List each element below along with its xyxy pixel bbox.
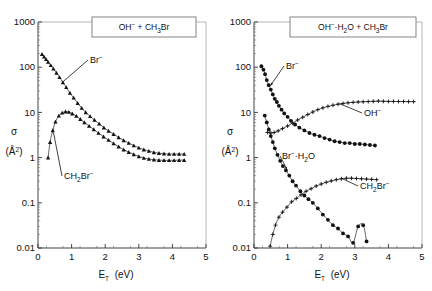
y-tick-label-4: 0.1 (238, 197, 251, 208)
data-point (328, 138, 332, 142)
y-tick-label-0: 1000 (14, 16, 35, 27)
data-point (106, 129, 110, 133)
data-point (271, 232, 275, 236)
data-point (356, 100, 360, 104)
data-point (321, 213, 325, 217)
x-tick-label-3: 3 (136, 251, 141, 262)
data-point (306, 112, 310, 116)
data-point (137, 154, 141, 158)
data-point (127, 141, 131, 145)
data-point (280, 108, 284, 112)
y-tick-label-3: 1 (246, 152, 251, 163)
data-point (132, 152, 136, 156)
data-point (331, 223, 335, 227)
data-point (334, 178, 338, 182)
data-point (343, 141, 347, 145)
data-point (275, 100, 279, 104)
data-point (308, 131, 312, 135)
data-point (286, 115, 290, 119)
curve-label-text: Br− (286, 60, 299, 71)
curve-label-text: Br−·H2O (282, 150, 315, 163)
curve-annotation-oh-minus: OH− (340, 104, 382, 118)
data-point (112, 141, 116, 145)
data-point (294, 184, 298, 188)
data-point (117, 135, 121, 139)
data-point (365, 239, 369, 243)
data-point (282, 112, 286, 116)
x-tick-label-0: 0 (251, 251, 256, 262)
data-point (336, 102, 340, 106)
curve-annotation-br-minus: Br− (271, 60, 299, 85)
data-point (137, 146, 141, 150)
data-point (267, 128, 271, 132)
curve-annotation-ch2br-minus: CH2Br− (53, 132, 93, 182)
data-point (351, 100, 355, 104)
data-point (132, 143, 136, 147)
data-point (318, 134, 322, 138)
data-point (301, 115, 305, 119)
data-point (259, 64, 263, 68)
data-point (276, 129, 280, 133)
plot-frame (254, 22, 422, 248)
data-point (346, 101, 350, 105)
data-point (127, 150, 131, 154)
plot-right: 10001001010.10.01012345ET (eV)σ(Å2)OH−·H… (216, 0, 432, 291)
leader-line (63, 60, 88, 82)
data-point (272, 130, 276, 134)
data-point (316, 207, 320, 211)
curve-label-text: CH2Br− (64, 170, 94, 183)
data-point (57, 75, 61, 79)
data-point (286, 124, 290, 128)
data-point (329, 179, 333, 183)
data-point (338, 140, 342, 144)
data-point (349, 176, 353, 180)
data-point (291, 179, 295, 183)
data-point (269, 134, 273, 138)
data-point (51, 128, 55, 132)
x-axis-label: ET (eV) (98, 269, 133, 282)
data-point (287, 174, 291, 178)
y-tick-label-0: 1000 (230, 16, 251, 27)
data-point (361, 100, 365, 104)
data-point (402, 100, 406, 104)
data-point (366, 100, 370, 104)
y-tick-label-2: 10 (24, 107, 35, 118)
curve-annotation-ch2br-minus: CH2Br− (342, 178, 390, 192)
data-point (284, 169, 288, 173)
data-point (351, 241, 355, 245)
data-point (122, 148, 126, 152)
data-point (277, 215, 281, 219)
y-tick-label-1: 100 (235, 61, 251, 72)
data-point (122, 138, 126, 142)
data-point (271, 93, 275, 97)
x-tick-label-5: 5 (203, 251, 208, 262)
data-point (361, 223, 365, 227)
data-point (358, 142, 362, 146)
data-point (263, 72, 267, 76)
data-point (354, 176, 358, 180)
data-point (326, 104, 330, 108)
curve-label-text: Br− (90, 54, 103, 65)
data-point (376, 99, 380, 103)
x-tick-label-2: 2 (319, 251, 324, 262)
panel-title-box: OH−·H2O + CH3Br (290, 17, 416, 37)
data-point (313, 133, 317, 137)
data-point (353, 142, 357, 146)
data-point (323, 136, 327, 140)
data-point (92, 127, 96, 131)
y-axis-label-sigma: σ (227, 126, 234, 137)
data-point (263, 114, 267, 118)
data-point (265, 121, 269, 125)
data-point (407, 100, 411, 104)
data-point (311, 201, 315, 205)
data-point (324, 180, 328, 184)
data-point (267, 83, 271, 87)
data-point (386, 99, 390, 103)
data-point (262, 68, 266, 72)
data-point (274, 223, 278, 227)
data-point (281, 127, 285, 131)
y-axis-label-units: (Å2) (6, 145, 23, 157)
data-point (363, 143, 367, 147)
data-point (297, 126, 301, 130)
curve-label-text: OH− (364, 107, 382, 118)
